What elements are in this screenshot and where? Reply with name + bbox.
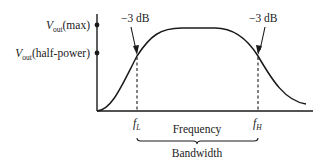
vout-half-power-label: Vout(half-power) <box>15 47 90 62</box>
fl-label: fL <box>133 117 140 132</box>
bandwidth-brace <box>137 138 258 144</box>
frequency-response-diagram: Vout(max) Vout(half-power) −3 dB −3 dB f… <box>0 0 326 162</box>
vout-half-power-dot <box>95 51 100 56</box>
x-axis-label: Frequency <box>173 123 222 136</box>
fh-label: fH <box>253 117 262 132</box>
left-3db-label: −3 dB <box>121 12 150 24</box>
vout-max-label: Vout(max) <box>46 19 90 34</box>
response-curve <box>97 28 306 111</box>
bandwidth-label: Bandwidth <box>172 147 223 159</box>
right-3db-label: −3 dB <box>249 12 278 24</box>
vout-max-dot <box>95 23 100 28</box>
